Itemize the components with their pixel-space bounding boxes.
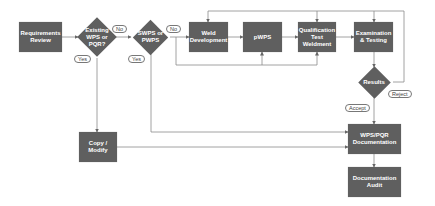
decision-label: Existing WPS or PQR? xyxy=(84,27,110,48)
node-label: Weld Development xyxy=(188,30,230,44)
flowchart-canvas: Requirements Review Weld Development pWP… xyxy=(0,0,435,206)
node-copy-modify: Copy / Modify xyxy=(79,132,117,162)
node-pwps: pWPS xyxy=(243,22,282,52)
decision-label: SWPS or PWPS xyxy=(138,30,164,44)
node-label: Documentation Audit xyxy=(348,175,401,189)
node-label: WPS/PQR Documentation xyxy=(348,132,401,146)
edge-label-existing-yes: Yes xyxy=(74,55,91,63)
node-label: Copy / Modify xyxy=(79,140,117,154)
node-documentation-audit: Documentation Audit xyxy=(348,167,401,197)
node-label: Qualification Test Weldment xyxy=(297,27,337,48)
decision-swps-pwps: SWPS or PWPS xyxy=(131,20,170,54)
edge-label-existing-no: No xyxy=(112,25,127,33)
node-wps-pqr-documentation: WPS/PQR Documentation xyxy=(348,124,401,154)
decision-existing-wps-pqr: Existing WPS or PQR? xyxy=(78,16,116,58)
node-qualification-test-weldment: Qualification Test Weldment xyxy=(298,22,336,52)
node-label: Requirements Review xyxy=(19,30,63,44)
decision-label: Results xyxy=(363,79,385,86)
edge-label-swps-no: No xyxy=(166,25,181,33)
node-weld-development: Weld Development xyxy=(189,22,228,52)
node-requirements-review: Requirements Review xyxy=(19,22,62,52)
edge-label-swps-yes: Yes xyxy=(128,55,145,63)
edge-label-results-accept: Accept xyxy=(345,104,370,112)
node-label: Examination & Testing xyxy=(354,30,394,44)
node-label: pWPS xyxy=(252,34,273,41)
node-examination-testing: Examination & Testing xyxy=(354,22,393,52)
edge-label-results-reject: Reject xyxy=(388,90,412,98)
